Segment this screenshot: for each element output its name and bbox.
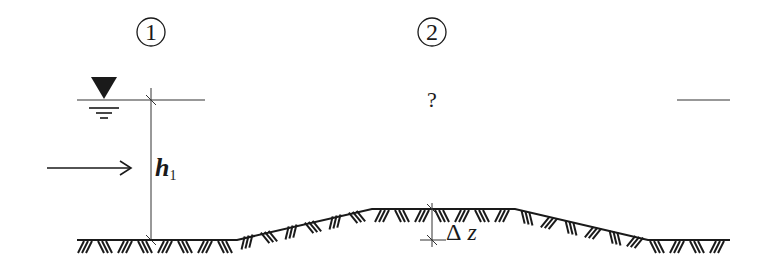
flow-direction-arrow-icon (47, 161, 131, 175)
flow-over-hump-diagram: 1 2 ? h1 (0, 0, 771, 260)
h1-label: h1 (155, 153, 176, 183)
free-surface-icon (89, 77, 119, 118)
unknown-depth-label: ? (427, 87, 437, 112)
section-2-marker: 2 (418, 18, 446, 46)
channel-bed-profile (77, 209, 730, 240)
section-1-marker: 1 (137, 18, 165, 46)
delta-z-label: Δz (446, 219, 477, 245)
ground-hatching-hump-top (375, 210, 509, 222)
ground-hatching-left (78, 241, 232, 253)
section-2-label: 2 (426, 19, 438, 45)
ground-hatching-right (650, 241, 724, 253)
ground-hatching-downslope (519, 211, 643, 250)
section-1-label: 1 (145, 19, 157, 45)
